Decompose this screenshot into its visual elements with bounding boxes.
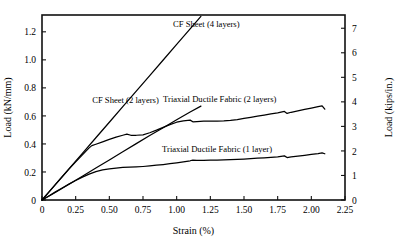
x-axis-title: Strain (%) — [173, 225, 214, 237]
figure-container: 00.250.500.751.001.251.501.752.002.25 00… — [0, 0, 405, 248]
y-axis-title-right: Load (kips/in.) — [383, 78, 395, 137]
y-tick-label-right: 5 — [352, 73, 357, 83]
y-tick-label-left: 1.2 — [24, 27, 36, 37]
x-tick-label: 0.25 — [67, 205, 84, 215]
x-tick-label: 1.50 — [236, 205, 253, 215]
x-tick-label: 0.75 — [135, 205, 152, 215]
x-tick-label: 2.25 — [337, 205, 354, 215]
x-tick-label: 0.50 — [101, 205, 118, 215]
y-tick-label-left: 0.4 — [24, 140, 36, 150]
y-tick-label-right: 6 — [352, 48, 357, 58]
series-label-0: CF Sheet (4 layers) — [173, 19, 240, 29]
y-tick-label-right: 2 — [352, 147, 357, 157]
y-tick-label-right: 0 — [352, 196, 357, 206]
y-tick-label-right: 3 — [352, 122, 357, 132]
y-axis-title-left: Load (kN/mm) — [2, 77, 14, 137]
x-tick-label: 0 — [40, 205, 45, 215]
y-tick-label-left: 0.2 — [24, 168, 36, 178]
y-tick-label-left: 0 — [31, 196, 36, 206]
y-tick-label-left: 1.0 — [24, 55, 36, 65]
series-label-2: Triaxial Ductile Fabric (2 layers) — [163, 94, 276, 104]
x-tick-label: 1.25 — [202, 205, 219, 215]
y-tick-label-right: 4 — [352, 97, 357, 107]
y-tick-label-right: 7 — [352, 24, 357, 34]
y-tick-label-left: 0.6 — [24, 112, 36, 122]
x-tick-label: 2.00 — [303, 205, 320, 215]
x-tick-label: 1.00 — [168, 205, 185, 215]
series-label-3: Triaxial Ductile Fabric (1 layer) — [162, 144, 272, 154]
series-label-1: CF Sheet (2 layers) — [92, 95, 159, 105]
x-tick-label: 1.75 — [269, 205, 286, 215]
y-tick-label-left: 0.8 — [24, 83, 36, 93]
load-strain-chart: 00.250.500.751.001.251.501.752.002.25 00… — [0, 0, 405, 248]
y-tick-label-right: 1 — [352, 171, 357, 181]
